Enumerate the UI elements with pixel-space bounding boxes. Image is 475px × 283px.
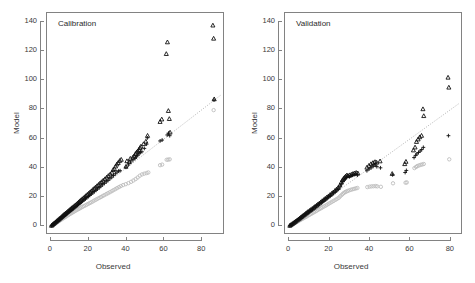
y-axis-tick-label: 80 bbox=[252, 103, 275, 112]
triangle-series bbox=[50, 23, 217, 227]
x-axis-tick bbox=[126, 237, 127, 241]
x-axis-tick-label: 60 bbox=[151, 244, 175, 253]
x-axis-tick bbox=[50, 237, 51, 241]
y-axis-tick-label: 100 bbox=[252, 74, 275, 83]
x-axis-tick bbox=[329, 237, 330, 241]
data-point bbox=[421, 107, 425, 111]
x-axis-tick-label: 20 bbox=[317, 244, 341, 253]
data-point bbox=[160, 138, 164, 142]
panel-title-validation: Validation bbox=[296, 19, 331, 28]
y-axis-tick-label: 140 bbox=[14, 16, 37, 25]
y-axis-tick-label: 60 bbox=[252, 133, 275, 142]
x-axis-tick-label: 80 bbox=[189, 244, 213, 253]
y-axis-tick-label: 40 bbox=[252, 162, 275, 171]
x-axis-tick bbox=[288, 237, 289, 241]
x-axis-tick bbox=[369, 237, 370, 241]
data-point bbox=[142, 142, 146, 146]
panel-title-calibration: Calibration bbox=[58, 19, 96, 28]
data-point bbox=[211, 23, 215, 27]
y-axis-tick bbox=[40, 225, 44, 226]
data-point bbox=[422, 114, 426, 118]
data-point bbox=[166, 109, 170, 113]
x-axis-tick bbox=[163, 237, 164, 241]
y-axis-tick-label: 100 bbox=[14, 74, 37, 83]
y-axis-tick-label: 120 bbox=[252, 45, 275, 54]
y-axis-tick bbox=[278, 108, 282, 109]
y-axis-spine bbox=[40, 21, 41, 225]
y-axis-tick bbox=[40, 138, 44, 139]
panel-validation: Validation Model Observed 02040608010012… bbox=[238, 0, 475, 283]
data-point bbox=[212, 108, 215, 111]
figure-root: Calibration Model Observed 0204060801001… bbox=[0, 0, 475, 283]
plot-canvas-validation bbox=[285, 13, 463, 235]
y-axis-tick bbox=[40, 108, 44, 109]
panel-calibration: Calibration Model Observed 0204060801001… bbox=[0, 0, 237, 283]
y-axis-tick bbox=[40, 196, 44, 197]
y-axis-tick bbox=[278, 138, 282, 139]
data-point bbox=[160, 163, 163, 166]
y-axis-tick-label: 120 bbox=[14, 45, 37, 54]
x-axis-tick-label: 40 bbox=[357, 244, 381, 253]
x-axis-tick-label: 60 bbox=[397, 244, 421, 253]
x-axis-tick bbox=[201, 237, 202, 241]
data-point bbox=[158, 139, 162, 143]
data-point bbox=[448, 158, 451, 161]
y-axis-tick-label: 0 bbox=[14, 220, 37, 229]
data-point bbox=[447, 134, 451, 138]
y-axis-tick-label: 40 bbox=[14, 162, 37, 171]
x-axis-tick-label: 40 bbox=[114, 244, 138, 253]
y-axis-tick-label: 140 bbox=[252, 16, 275, 25]
plot-canvas-calibration bbox=[47, 13, 225, 235]
data-point bbox=[164, 52, 168, 56]
y-axis-tick bbox=[40, 21, 44, 22]
y-axis-tick bbox=[278, 21, 282, 22]
data-point bbox=[167, 117, 171, 121]
y-axis-tick-label: 60 bbox=[14, 133, 37, 142]
data-point bbox=[404, 159, 408, 163]
data-point bbox=[160, 117, 164, 121]
y-axis-tick bbox=[40, 167, 44, 168]
y-axis-tick-label: 20 bbox=[252, 191, 275, 200]
data-point bbox=[379, 166, 383, 170]
y-axis-title-validation: Model bbox=[250, 112, 259, 134]
y-axis-spine bbox=[278, 21, 279, 225]
y-axis-title-calibration: Model bbox=[12, 112, 21, 134]
x-axis-tick-label: 0 bbox=[276, 244, 300, 253]
y-axis-tick bbox=[40, 79, 44, 80]
data-point bbox=[447, 85, 451, 89]
x-axis-tick bbox=[409, 237, 410, 241]
x-axis-tick-label: 80 bbox=[438, 244, 462, 253]
plot-area-validation bbox=[284, 12, 462, 234]
data-point bbox=[446, 75, 450, 79]
data-point bbox=[144, 139, 148, 143]
data-point bbox=[212, 36, 216, 40]
triangle-series bbox=[288, 75, 451, 227]
x-axis-tick bbox=[88, 237, 89, 241]
data-point bbox=[165, 40, 169, 44]
y-axis-tick-label: 0 bbox=[252, 220, 275, 229]
x-axis-tick-label: 20 bbox=[76, 244, 100, 253]
y-axis-tick-label: 80 bbox=[14, 103, 37, 112]
x-axis-title-calibration: Observed bbox=[96, 262, 131, 271]
plot-area-calibration bbox=[46, 12, 224, 234]
gray-circle-series bbox=[50, 108, 215, 227]
y-axis-tick bbox=[278, 50, 282, 51]
data-point bbox=[379, 185, 382, 188]
y-axis-tick-label: 20 bbox=[14, 191, 37, 200]
y-axis-tick bbox=[278, 167, 282, 168]
y-axis-tick bbox=[278, 79, 282, 80]
x-axis-tick bbox=[450, 237, 451, 241]
x-axis-title-validation: Observed bbox=[334, 262, 369, 271]
y-axis-tick bbox=[278, 196, 282, 197]
x-axis-tick-label: 0 bbox=[38, 244, 62, 253]
data-point bbox=[391, 182, 394, 185]
data-point bbox=[413, 145, 417, 149]
data-point bbox=[420, 133, 424, 137]
y-axis-tick bbox=[278, 225, 282, 226]
y-axis-tick bbox=[40, 50, 44, 51]
